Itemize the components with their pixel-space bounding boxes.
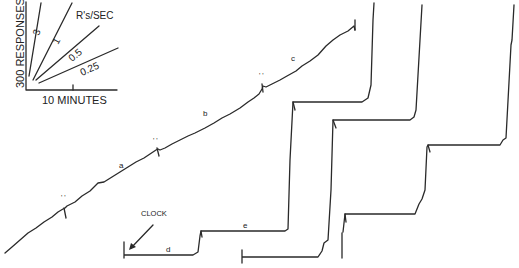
pen-hatch-marks	[64, 20, 355, 218]
clock-label: CLOCK	[141, 209, 167, 218]
rate-label-0.25: 0.25	[78, 60, 101, 78]
rate-label-0.5: 0.5	[66, 46, 84, 64]
curve-label-a: a	[119, 161, 124, 170]
record-4-line	[342, 5, 514, 258]
curve-label-d: d	[166, 245, 170, 254]
record-de-line	[124, 3, 374, 258]
record-4	[342, 5, 514, 258]
record-3-line	[242, 5, 422, 263]
clock-annotation: CLOCK	[129, 209, 167, 250]
rate-line-3	[29, 3, 41, 76]
rate-label-1: 1	[50, 35, 63, 45]
pen-mark: ' '	[61, 194, 66, 201]
record-abc-line	[5, 26, 355, 253]
reset-mark	[345, 145, 430, 222]
pen-mark: ' '	[153, 137, 158, 144]
cumulative-record-chart: 300 RESPONSES 10 MINUTES R's/SEC 3 1 0.5…	[0, 0, 519, 268]
legend-rate-label: R's/SEC	[76, 10, 113, 21]
legend-x-label: 10 MINUTES	[42, 94, 107, 106]
curve-label-e: e	[243, 221, 248, 230]
record-abc: ' ' ' ' ' ' a b c	[5, 20, 355, 253]
curve-label-c: c	[291, 54, 295, 63]
record-3	[242, 5, 422, 263]
record-de: d e	[124, 3, 374, 258]
clock-arrow-icon	[131, 225, 153, 248]
legend-y-label: 300 RESPONSES	[14, 0, 26, 88]
slope-legend: 300 RESPONSES 10 MINUTES R's/SEC 3 1 0.5…	[14, 0, 118, 106]
curve-label-b: b	[203, 109, 208, 118]
pen-mark: ' '	[259, 72, 264, 79]
